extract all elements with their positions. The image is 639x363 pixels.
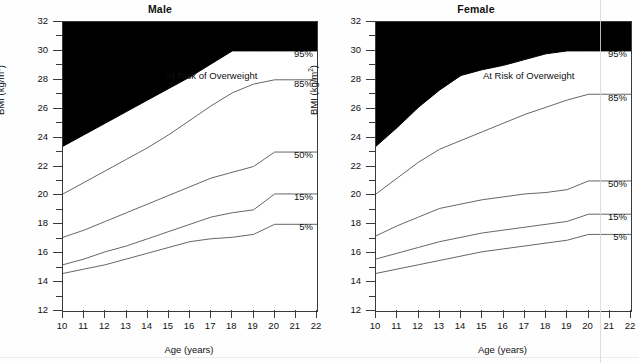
percentile-curve-50 — [376, 181, 631, 236]
panel-female: Female BMI (kg/m2) 121416182022242628303… — [313, 0, 639, 363]
y-tick-minor — [56, 180, 62, 181]
y-tick-label: 24 — [335, 131, 361, 142]
y-tick-label: 12 — [22, 304, 48, 315]
x-tick-label: 15 — [159, 320, 177, 331]
x-tick — [609, 310, 610, 318]
y-tick-minor — [369, 180, 375, 181]
curves-male — [63, 22, 317, 311]
x-tick-label: 11 — [74, 320, 92, 331]
x-tick-label: 20 — [579, 320, 597, 331]
y-tick-label: 16 — [22, 246, 48, 257]
percentile-label-95: 95% — [597, 48, 627, 59]
y-tick-label: 24 — [22, 131, 48, 142]
x-tick — [147, 310, 148, 318]
y-tick-minor — [369, 238, 375, 239]
scan-artifact-line — [600, 0, 601, 363]
percentile-label-15: 15% — [597, 211, 627, 222]
y-tick-major — [366, 194, 375, 195]
y-tick-label: 12 — [335, 304, 361, 315]
y-tick-label: 32 — [335, 15, 361, 26]
y-tick-minor — [369, 93, 375, 94]
y-tick-minor — [369, 35, 375, 36]
y-tick-major — [53, 79, 62, 80]
y-tick-major — [53, 310, 62, 311]
y-axis-label-male: BMI (kg/m2) — [0, 30, 6, 150]
x-tick-label: 17 — [515, 320, 533, 331]
x-tick — [545, 310, 546, 318]
x-tick-label: 16 — [494, 320, 512, 331]
y-tick-minor — [56, 35, 62, 36]
y-tick-major — [366, 108, 375, 109]
x-tick — [630, 310, 631, 318]
y-tick-major — [53, 21, 62, 22]
x-axis-label-female: Age (years) — [375, 344, 630, 355]
x-tick-label: 10 — [53, 320, 71, 331]
x-tick-label: 14 — [451, 320, 469, 331]
y-tick-major — [366, 137, 375, 138]
y-tick-major — [53, 281, 62, 282]
y-tick-major — [366, 310, 375, 311]
y-tick-label: 26 — [22, 102, 48, 113]
x-tick — [83, 310, 84, 318]
x-tick — [439, 310, 440, 318]
y-tick-minor — [369, 122, 375, 123]
y-tick-label: 18 — [335, 217, 361, 228]
x-tick — [396, 310, 397, 318]
panel-male: Male BMI (kg/m2) 1214161820222426283032 … — [0, 0, 320, 363]
percentile-curve-15 — [63, 194, 317, 265]
y-tick-minor — [369, 209, 375, 210]
x-tick — [126, 310, 127, 318]
x-tick-label: 19 — [244, 320, 262, 331]
at-risk-of-overweight-annotation: At Risk of Overweight — [483, 70, 574, 81]
x-tick-label: 13 — [430, 320, 448, 331]
x-tick — [295, 310, 296, 318]
x-tick — [274, 310, 275, 318]
x-tick — [253, 310, 254, 318]
x-tick — [168, 310, 169, 318]
x-tick-label: 20 — [265, 320, 283, 331]
y-tick-major — [53, 108, 62, 109]
x-tick-label: 19 — [557, 320, 575, 331]
y-tick-major — [53, 223, 62, 224]
x-tick — [566, 310, 567, 318]
y-tick-major — [366, 50, 375, 51]
at-risk-of-overweight-annotation: At Risk of Overweight — [166, 70, 257, 81]
y-tick-label: 28 — [335, 73, 361, 84]
x-axis-label-male: Age (years) — [62, 344, 316, 355]
y-tick-major — [366, 223, 375, 224]
obese-region-fill — [63, 22, 317, 146]
percentile-label-5: 5% — [283, 221, 313, 232]
y-tick-label: 20 — [22, 188, 48, 199]
percentile-curve-5 — [63, 224, 317, 273]
y-tick-major — [366, 79, 375, 80]
y-tick-label: 14 — [335, 275, 361, 286]
x-tick — [189, 310, 190, 318]
y-tick-minor — [369, 267, 375, 268]
scan-artifact-edge — [0, 357, 639, 358]
y-tick-label: 32 — [22, 15, 48, 26]
y-tick-minor — [56, 151, 62, 152]
y-tick-minor — [369, 296, 375, 297]
percentile-label-50: 50% — [283, 149, 313, 160]
panel-title-male: Male — [0, 3, 320, 15]
percentile-curve-15 — [376, 214, 631, 259]
x-tick-label: 22 — [621, 320, 639, 331]
x-tick — [524, 310, 525, 318]
percentile-curve-5 — [376, 234, 631, 273]
curves-female — [376, 22, 631, 311]
x-tick — [503, 310, 504, 318]
y-tick-major — [53, 194, 62, 195]
x-tick — [588, 310, 589, 318]
panel-title-female: Female — [313, 3, 639, 15]
x-tick — [460, 310, 461, 318]
y-tick-label: 30 — [22, 44, 48, 55]
y-tick-minor — [56, 64, 62, 65]
y-tick-label: 20 — [335, 188, 361, 199]
bmi-percentile-figure: Male BMI (kg/m2) 1214161820222426283032 … — [0, 0, 639, 363]
y-axis-label-female: BMI (kg/m2) — [307, 30, 319, 150]
x-tick-label: 11 — [387, 320, 405, 331]
y-tick-label: 28 — [22, 73, 48, 84]
y-tick-label: 18 — [22, 217, 48, 228]
percentile-label-15: 15% — [283, 191, 313, 202]
x-tick-label: 12 — [95, 320, 113, 331]
